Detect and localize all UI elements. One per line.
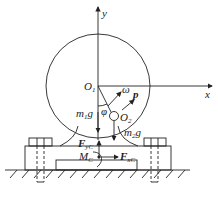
o2-label: O2 <box>120 111 132 125</box>
mc-label: MC <box>78 150 93 164</box>
mechanics-diagram: y x O1 O2 ω p φ m1g m2g FyC FxC MC <box>0 0 218 202</box>
p-arrow <box>122 100 134 110</box>
omega-arrow <box>108 92 121 106</box>
x-axis-label: x <box>204 88 210 100</box>
fxc-label: FxC <box>119 150 135 164</box>
o1-label: O1 <box>84 80 95 94</box>
y-axis-label: y <box>101 7 107 19</box>
m1g-label: m1g <box>76 107 93 121</box>
m2g-label: m2g <box>124 126 141 140</box>
right-bolt-head <box>144 138 166 146</box>
phi-label: φ <box>101 105 107 117</box>
p-label: p <box>132 88 139 100</box>
o2-mass-circle <box>110 112 119 121</box>
diagram-canvas: y x O1 O2 ω p φ m1g m2g FyC FxC MC <box>0 0 218 202</box>
mc-moment-arc <box>93 152 102 167</box>
fyc-label: FyC <box>77 137 93 151</box>
ground-hatching <box>10 170 185 178</box>
left-bolt-head <box>29 138 52 146</box>
omega-label: ω <box>122 83 130 95</box>
